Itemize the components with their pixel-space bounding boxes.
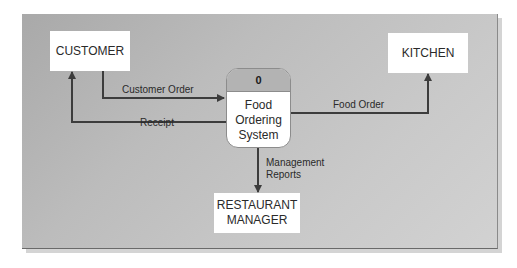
flow-label-management-reports-line2: Reports: [266, 169, 301, 181]
flow-label-food-order: Food Order: [333, 99, 384, 111]
entity-manager-label-line2: MANAGER: [227, 213, 288, 228]
process-label-line2: Ordering: [235, 113, 282, 128]
process-label: Food Ordering System: [227, 92, 290, 148]
entity-restaurant-manager: RESTAURANT MANAGER: [214, 193, 300, 233]
entity-manager-label-line1: RESTAURANT: [217, 198, 297, 213]
entity-kitchen-label: KITCHEN: [402, 46, 455, 61]
entity-kitchen: KITCHEN: [388, 33, 468, 73]
entity-customer: CUSTOMER: [50, 31, 130, 71]
flow-label-receipt: Receipt: [140, 117, 174, 129]
process-label-line3: System: [238, 128, 278, 143]
entity-customer-label: CUSTOMER: [56, 44, 124, 59]
process-label-line1: Food: [245, 98, 272, 113]
flow-label-management-reports-line1: Management: [266, 157, 324, 169]
process-food-ordering-system: 0 Food Ordering System: [226, 68, 291, 148]
flow-label-customer-order: Customer Order: [122, 84, 194, 96]
process-number: 0: [227, 69, 290, 92]
